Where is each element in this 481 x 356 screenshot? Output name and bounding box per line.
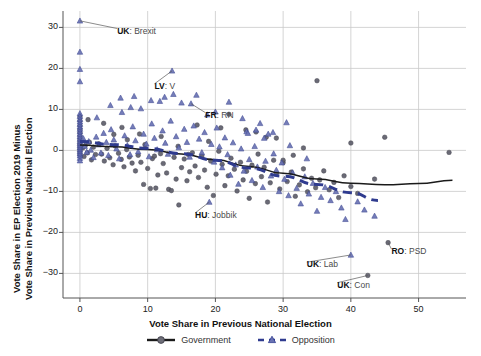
annotation-party-name: : PSD	[404, 246, 426, 256]
data-point-triangle	[348, 252, 354, 257]
annotation-party-name: : Jobbik	[207, 210, 236, 220]
data-point-circle	[156, 173, 161, 178]
data-point-circle	[247, 196, 252, 201]
data-point-triangle	[128, 104, 134, 109]
data-point-triangle	[162, 94, 168, 99]
data-point-triangle	[119, 109, 125, 114]
data-point-triangle	[343, 216, 349, 221]
data-point-circle	[223, 183, 228, 188]
y-tick-label: 10	[30, 103, 58, 113]
data-point-triangle	[101, 130, 107, 135]
data-point-circle	[274, 136, 279, 141]
legend-item-government[interactable]: Government	[146, 334, 231, 346]
y-tick-label: −30	[30, 267, 58, 277]
data-point-circle	[111, 162, 116, 167]
annotation-label-lv-v: LV: V	[154, 81, 175, 91]
data-point-circle	[342, 174, 347, 179]
x-tick-label: 10	[138, 304, 158, 314]
data-point-triangle	[94, 115, 100, 120]
data-point-triangle	[238, 146, 244, 151]
data-point-circle	[182, 157, 187, 162]
data-point-circle	[268, 180, 273, 185]
data-point-triangle	[181, 126, 187, 131]
data-point-triangle	[184, 139, 190, 144]
data-point-triangle	[240, 116, 246, 121]
data-point-triangle	[217, 144, 223, 149]
data-point-triangle	[131, 93, 137, 98]
data-point-triangle	[148, 97, 154, 102]
data-point-circle	[372, 177, 377, 182]
data-point-triangle	[138, 106, 144, 111]
data-point-triangle	[133, 138, 139, 143]
annotation-country-code: FR	[205, 110, 216, 120]
data-point-circle	[205, 185, 210, 190]
data-point-triangle	[287, 143, 293, 148]
data-point-triangle	[146, 154, 152, 159]
annotation-country-code: RO	[391, 246, 404, 256]
annotation-country-code: UK	[117, 26, 129, 36]
data-point-circle	[122, 165, 127, 170]
data-point-circle	[133, 169, 138, 174]
data-point-circle	[120, 125, 125, 130]
data-point-triangle	[270, 129, 276, 134]
data-point-triangle	[127, 152, 133, 157]
data-point-triangle	[247, 157, 253, 162]
data-point-triangle	[202, 129, 208, 134]
data-point-circle	[259, 174, 264, 179]
data-point-triangle	[77, 79, 83, 84]
data-point-circle	[271, 158, 276, 163]
x-axis-title: Vote Share in Previous National Election	[0, 318, 481, 329]
data-point-triangle	[171, 91, 177, 96]
annotation-party-name: : RN	[217, 110, 234, 120]
series-opposition	[77, 18, 377, 257]
data-point-circle	[265, 200, 270, 205]
data-point-triangle	[196, 136, 202, 141]
data-point-triangle	[322, 184, 328, 189]
annotation-party-name: : Con	[350, 280, 370, 290]
legend-item-opposition[interactable]: Opposition	[257, 334, 335, 346]
data-point-circle	[313, 185, 318, 190]
scatter-plot-canvas	[0, 0, 481, 356]
data-point-circle	[291, 153, 296, 158]
data-point-circle	[102, 159, 107, 164]
data-point-circle	[315, 78, 320, 83]
data-point-circle	[179, 165, 184, 170]
annotation-party-name: : Lab	[319, 259, 338, 269]
legend-label-government: Government	[181, 335, 231, 345]
data-point-triangle	[163, 140, 169, 145]
data-point-triangle	[260, 184, 266, 189]
legend-label-opposition: Opposition	[292, 335, 335, 345]
data-point-circle	[349, 141, 354, 146]
data-point-triangle	[108, 127, 114, 132]
data-point-triangle	[257, 120, 263, 125]
data-point-circle	[152, 154, 157, 159]
annotation-country-code: LV	[154, 81, 164, 91]
annotation-country-code: UK	[307, 259, 319, 269]
annotation-label-hu-jobbik: HU: Jobbik	[195, 210, 237, 220]
data-point-circle	[382, 135, 387, 140]
data-point-triangle	[362, 207, 368, 212]
data-point-circle	[153, 186, 158, 191]
y-tick-label: −20	[30, 226, 58, 236]
annotation-label-uk-con: UK: Con	[337, 280, 370, 290]
fit-line-government	[80, 145, 453, 185]
annotation-country-code: HU	[195, 210, 207, 220]
data-point-triangle	[152, 135, 158, 140]
data-point-circle	[174, 177, 179, 182]
data-point-circle	[164, 171, 169, 176]
data-point-circle	[185, 178, 190, 183]
data-point-triangle	[318, 194, 324, 199]
annotation-party-name: : Brexit	[129, 26, 155, 36]
data-point-triangle	[286, 193, 292, 198]
data-point-triangle	[225, 152, 231, 157]
data-point-triangle	[168, 118, 174, 123]
data-point-circle	[101, 121, 106, 126]
data-point-circle	[447, 150, 452, 155]
data-point-triangle	[106, 152, 112, 157]
data-point-triangle	[271, 151, 277, 156]
data-point-triangle	[226, 99, 232, 104]
data-point-circle	[301, 167, 306, 172]
y-axis-title-line1: Vote Share in EP Election 2019 Minus	[11, 124, 22, 293]
data-point-triangle	[284, 120, 290, 125]
data-point-circle	[216, 149, 221, 154]
